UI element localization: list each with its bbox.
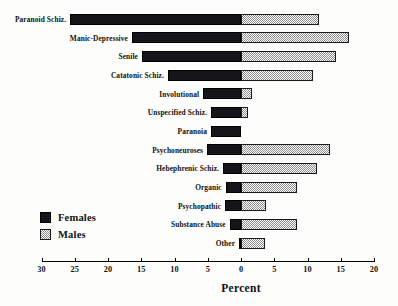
category-label: Psychoneuroses (152, 145, 203, 154)
category-label: Paranoia (178, 127, 208, 136)
x-axis-tick (141, 258, 142, 262)
chart-row: Involutional (0, 87, 398, 100)
category-label: Organic (195, 183, 222, 192)
bar-females (203, 88, 241, 99)
x-axis-tick-label: 10 (303, 265, 311, 274)
legend-item-males: Males (40, 227, 96, 242)
legend-swatch-males-icon (40, 229, 51, 240)
chart-row: Senile (0, 50, 398, 63)
bar-males (241, 70, 313, 81)
legend-label-males: Males (58, 229, 86, 240)
bar-males (241, 200, 266, 211)
x-axis-tick (208, 258, 209, 262)
legend-swatch-females-icon (40, 212, 51, 223)
bar-males (241, 219, 297, 230)
legend-label-females: Females (58, 212, 96, 223)
category-label: Senile (118, 52, 138, 61)
chart-row: Organic (0, 181, 398, 194)
chart-row: Unspecified Schiz. (0, 106, 398, 119)
x-axis-tick (42, 258, 43, 262)
chart-row: Paranoia (0, 125, 398, 138)
bar-females (142, 51, 241, 62)
bar-males (241, 182, 297, 193)
bar-males (241, 32, 349, 43)
bar-females (211, 107, 241, 118)
x-axis-tick (241, 258, 242, 262)
x-axis-tick-label: 15 (137, 265, 145, 274)
bar-females (226, 182, 241, 193)
chart-row: Manic-Depressive (0, 31, 398, 44)
category-label: Involutional (159, 89, 199, 98)
bar-males (241, 238, 265, 249)
bar-females (225, 200, 241, 211)
category-label: Hebephrenic Schiz. (156, 164, 219, 173)
bar-females (211, 126, 241, 137)
category-label: Paranoid Schiz. (15, 15, 66, 24)
x-axis-tick-label: 25 (71, 265, 79, 274)
bar-females (223, 163, 241, 174)
population-pyramid-chart: Paranoid Schiz.Manic-DepressiveSenileCat… (0, 0, 398, 306)
bar-females (230, 219, 241, 230)
bar-females (207, 144, 241, 155)
legend-item-females: Females (40, 210, 96, 225)
x-axis-tick (341, 258, 342, 262)
category-label: Psychopathic (178, 201, 221, 210)
x-axis-title: Percent (221, 282, 261, 294)
bar-males (241, 144, 330, 155)
chart-row: Psychoneuroses (0, 143, 398, 156)
x-axis-tick (274, 258, 275, 262)
chart-row: Catatonic Schiz. (0, 69, 398, 82)
bar-males (241, 107, 248, 118)
bar-males (241, 14, 319, 25)
bar-males (241, 163, 317, 174)
x-axis-tick-label: 0 (239, 265, 243, 274)
chart-legend: Females Males (40, 210, 96, 244)
x-axis-tick-label: 10 (170, 265, 178, 274)
bar-females (168, 70, 241, 81)
x-axis-tick (374, 258, 375, 262)
bar-males (241, 51, 336, 62)
x-axis-tick-label: 5 (206, 265, 210, 274)
category-label: Catatonic Schiz. (111, 71, 164, 80)
x-axis-tick (175, 258, 176, 262)
bar-females (132, 32, 241, 43)
x-axis-tick-label: 30 (37, 265, 45, 274)
x-axis-tick (108, 258, 109, 262)
x-axis-tick-label: 15 (337, 265, 345, 274)
x-axis-tick-label: 5 (272, 265, 276, 274)
category-label: Manic-Depressive (70, 33, 128, 42)
x-axis-tick (75, 258, 76, 262)
category-label: Other (216, 239, 235, 248)
chart-row: Paranoid Schiz. (0, 13, 398, 26)
category-label: Unspecified Schiz. (148, 108, 207, 117)
chart-row: Hebephrenic Schiz. (0, 162, 398, 175)
x-axis-tick-label: 20 (104, 265, 112, 274)
x-axis-tick-label: 20 (370, 265, 378, 274)
bar-males (241, 88, 252, 99)
x-axis-tick (308, 258, 309, 262)
bar-females (70, 14, 241, 25)
category-label: Substance Abuse (171, 220, 226, 229)
